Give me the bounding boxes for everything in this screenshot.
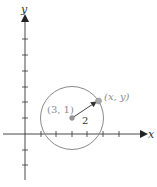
y-axis-label: y (20, 3, 28, 16)
x-axis-label: x (148, 128, 155, 141)
point-label: (x, y) (104, 91, 130, 102)
point-dot (96, 98, 102, 104)
center-label: (3, 1) (47, 104, 74, 115)
radius-label: 2 (82, 115, 88, 126)
center-dot (70, 116, 75, 121)
circle-diagram: y x (3, 1) 2 (x, y) (0, 0, 157, 187)
